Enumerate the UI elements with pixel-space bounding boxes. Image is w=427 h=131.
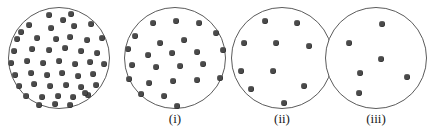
circle-2 [231,7,333,109]
panel-label-1: (i) [145,112,205,125]
dot [281,100,287,106]
dot [60,17,66,23]
dot [63,82,69,88]
dot [47,83,53,89]
dot [82,90,88,96]
dot [248,86,254,92]
dot [46,47,52,53]
dot [94,50,100,56]
dot [75,73,81,79]
dot [16,83,22,89]
panel-label-3: (iii) [346,112,406,125]
dot [55,93,61,99]
dot-density-figure: (i)(ii)(iii) [0,0,427,131]
dot [12,72,18,78]
circle-0 [8,7,110,109]
dot [126,76,132,82]
dot [34,35,40,41]
dot [177,63,183,69]
dot [44,72,50,78]
dot [301,83,307,89]
dot [62,45,68,51]
dot [181,37,187,43]
dot [59,70,65,76]
dot [220,47,226,53]
dot [78,48,84,54]
dot [170,78,176,84]
dot [161,93,167,99]
dot [68,11,74,17]
dot [200,61,206,67]
dot [26,22,32,28]
dot [11,48,17,54]
dot [24,58,30,64]
dot [173,18,179,24]
dot [72,61,78,67]
dot [87,59,93,65]
dot [194,49,200,55]
dot [357,70,363,76]
dot [146,80,152,86]
dot [306,43,312,49]
dot [56,58,62,64]
dot [379,21,385,27]
dot [169,50,175,56]
dot [40,60,46,66]
dot [67,102,73,108]
dot [31,81,37,87]
dot [101,61,107,67]
dot [217,75,223,81]
dot [67,34,73,40]
dot [28,70,34,76]
dot [14,36,20,42]
dot [8,60,14,66]
dot [157,40,163,46]
dot [241,40,247,46]
dot [99,35,105,41]
dot [270,68,276,74]
circle-1 [124,7,226,109]
dot [39,94,45,100]
dot [150,20,156,26]
dot [404,74,410,80]
dot [145,52,151,58]
dot [71,23,77,29]
dot [48,25,54,31]
dot [138,91,144,97]
dot [46,12,52,18]
dot [262,18,268,24]
dot [174,103,180,109]
dot [125,46,131,52]
dot [294,20,300,26]
dot [194,77,200,83]
dot [153,64,159,70]
dot [78,84,84,90]
panel-label-2: (ii) [252,112,312,125]
dot [378,56,384,62]
dot [36,102,42,108]
dot [52,101,58,107]
dot [53,36,59,42]
circle-3 [325,7,427,109]
dot [18,29,24,35]
dot [84,37,90,43]
dot [23,93,29,99]
dot [196,20,202,26]
dot [238,68,244,74]
dot [273,40,279,46]
dot [70,94,76,100]
dot [356,90,362,96]
dot [346,40,352,46]
dot [29,46,35,52]
dot [129,62,135,68]
dot [213,30,219,36]
dot [90,71,96,77]
dot [93,82,99,88]
dot [132,33,138,39]
dot [88,21,94,27]
